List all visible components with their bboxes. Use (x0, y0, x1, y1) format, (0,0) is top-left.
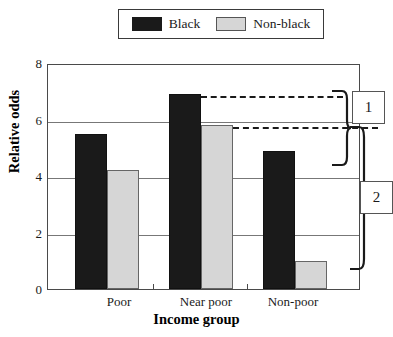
gridline-6 (48, 122, 359, 123)
annotation-label-box-1: 1 (352, 91, 385, 124)
ytick-label-0: 0 (28, 282, 42, 298)
x-axis-title: Income group (0, 311, 393, 328)
chart-legend: Black Non-black (118, 9, 324, 39)
legend-label-black: Black (169, 16, 201, 32)
figure-container: Black Non-black 8 6 4 2 0 Relative odds (0, 0, 393, 337)
ytick-label-4: 4 (28, 169, 42, 185)
bar-black-near-poor (169, 94, 201, 289)
bar-black-poor (75, 134, 107, 289)
ytick-label-6: 6 (28, 113, 42, 129)
y-axis-title: Relative odds (6, 90, 23, 173)
dashed-leader-6.9 (201, 96, 343, 98)
bar-nonblack-poor (107, 170, 139, 289)
xtick-mark-2 (247, 284, 248, 289)
legend-entry-black: Black (132, 16, 201, 32)
nonblack-swatch-icon (216, 17, 246, 31)
ytick-label-2: 2 (28, 226, 42, 242)
legend-entry-nonblack: Non-black (216, 16, 310, 32)
annotation-label-box-2: 2 (360, 181, 393, 214)
ytick-label-8: 8 (28, 56, 42, 72)
xtick-label-non-poor: Non-poor (268, 294, 319, 310)
xtick-label-poor: Poor (107, 294, 132, 310)
bar-nonblack-non-poor (295, 261, 327, 289)
xtick-mark-1 (153, 284, 154, 289)
legend-label-nonblack: Non-black (253, 16, 310, 32)
black-swatch-icon (132, 17, 162, 31)
plot-area (47, 64, 360, 290)
bar-nonblack-near-poor (201, 125, 233, 289)
bar-black-non-poor (263, 151, 295, 289)
xtick-label-near-poor: Near poor (180, 294, 232, 310)
